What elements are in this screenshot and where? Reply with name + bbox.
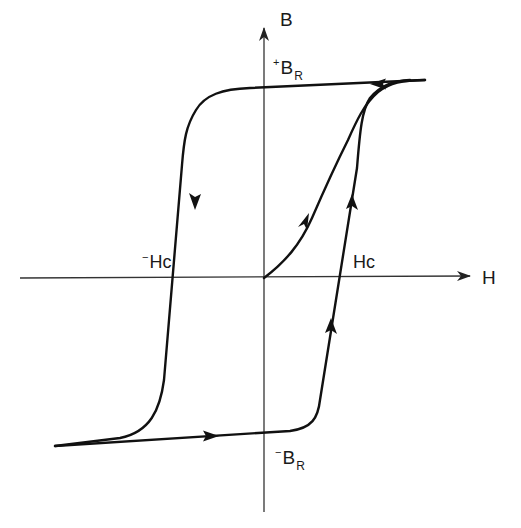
arrow-up-icon [346,194,358,210]
subscript: R [296,459,305,473]
h-axis [20,276,470,278]
axes [20,28,470,512]
arrow-down-icon [189,193,201,210]
symbol: B [280,57,293,78]
arrow-left-icon [370,79,386,90]
pos-remanence-label: +BR [273,58,303,77]
hysteresis-diagram [0,0,521,528]
neg-remanence-label: −BR [275,448,305,467]
symbol: Hc [149,252,171,272]
neg-coercivity-label: −Hc [142,253,171,271]
y-axis-label: B [280,10,293,29]
sign: − [142,251,148,263]
pos-coercivity-label: Hc [353,253,375,271]
sign: − [275,446,281,458]
symbol: B [282,447,295,468]
subscript: R [294,69,303,83]
x-axis-label: H [482,268,496,287]
sign: + [273,56,279,68]
